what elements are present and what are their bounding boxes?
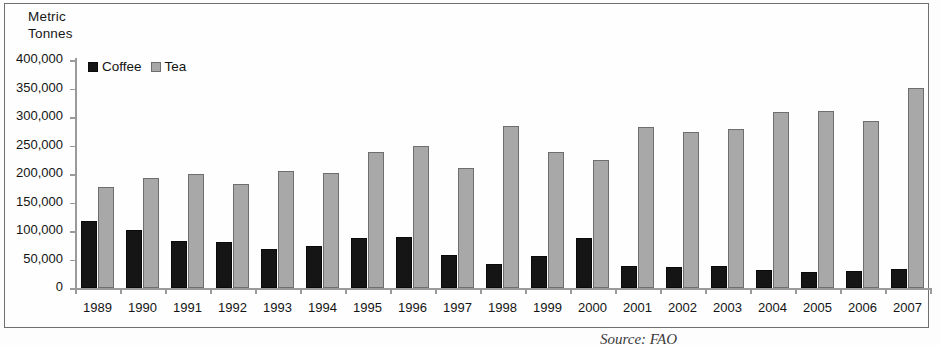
x-axis-tick-mark bbox=[120, 288, 122, 294]
bar-tea-1994 bbox=[323, 173, 339, 288]
bar-tea-2003 bbox=[728, 129, 744, 288]
y-axis-tick-label: 300,000 bbox=[16, 108, 63, 123]
x-axis-tick-label: 1993 bbox=[255, 300, 300, 315]
y-axis-tick-label: 100,000 bbox=[16, 222, 63, 237]
bar-coffee-2006 bbox=[846, 271, 862, 288]
bar-tea-2004 bbox=[773, 112, 789, 288]
x-axis-tick-label: 1995 bbox=[345, 300, 390, 315]
x-axis-tick-mark bbox=[930, 288, 932, 294]
bar-coffee-2001 bbox=[621, 266, 637, 288]
bar-coffee-1990 bbox=[126, 230, 142, 288]
x-axis-tick-label: 2006 bbox=[840, 300, 885, 315]
x-axis-tick-mark bbox=[840, 288, 842, 294]
bar-coffee-1997 bbox=[441, 255, 457, 288]
x-axis-tick-label: 2007 bbox=[885, 300, 930, 315]
bar-tea-1992 bbox=[233, 184, 249, 288]
bar-coffee-2002 bbox=[666, 267, 682, 288]
x-axis-tick-mark bbox=[570, 288, 572, 294]
x-axis-tick-label: 1996 bbox=[390, 300, 435, 315]
y-axis-tick-label: 50,000 bbox=[23, 251, 63, 266]
bar-coffee-1989 bbox=[81, 221, 97, 288]
y-axis-tick-label: 200,000 bbox=[16, 165, 63, 180]
x-axis-tick-mark bbox=[165, 288, 167, 294]
x-axis-tick-mark bbox=[435, 288, 437, 294]
x-axis-tick-label: 1997 bbox=[435, 300, 480, 315]
x-axis-tick-label: 1989 bbox=[75, 300, 120, 315]
x-axis-tick-mark bbox=[705, 288, 707, 294]
x-axis-tick-label: 1992 bbox=[210, 300, 255, 315]
bar-coffee-1994 bbox=[306, 246, 322, 288]
bar-tea-2005 bbox=[818, 111, 834, 288]
x-axis-tick-mark bbox=[750, 288, 752, 294]
bar-tea-2007 bbox=[908, 88, 924, 288]
bar-tea-2000 bbox=[593, 160, 609, 288]
bar-coffee-1998 bbox=[486, 264, 502, 289]
chart-figure: Metric Tonnes Coffee Tea 400,000350,0003… bbox=[0, 0, 941, 345]
x-axis-tick-label: 1999 bbox=[525, 300, 570, 315]
x-axis-tick-label: 2001 bbox=[615, 300, 660, 315]
x-axis-tick-mark bbox=[885, 288, 887, 294]
bar-tea-1993 bbox=[278, 171, 294, 288]
bar-coffee-1996 bbox=[396, 237, 412, 288]
bar-coffee-1991 bbox=[171, 241, 187, 288]
bar-coffee-1999 bbox=[531, 256, 547, 288]
y-axis-tick-label: 0 bbox=[56, 279, 63, 294]
x-axis-tick-mark bbox=[390, 288, 392, 294]
y-axis-title: Metric Tonnes bbox=[28, 8, 73, 42]
y-axis-tick-label: 400,000 bbox=[16, 51, 63, 66]
y-axis-tick-label: 150,000 bbox=[16, 194, 63, 209]
x-axis-tick-label: 1998 bbox=[480, 300, 525, 315]
bar-coffee-1993 bbox=[261, 249, 277, 288]
bar-tea-1995 bbox=[368, 152, 384, 288]
x-axis-tick-mark bbox=[345, 288, 347, 294]
bar-coffee-1995 bbox=[351, 238, 367, 288]
x-axis-tick-label: 2000 bbox=[570, 300, 615, 315]
figure-caption: Source: FAO bbox=[600, 331, 930, 344]
bar-tea-1997 bbox=[458, 168, 474, 288]
x-axis-tick-label: 2004 bbox=[750, 300, 795, 315]
x-axis-line bbox=[75, 288, 930, 290]
x-axis-tick-mark bbox=[795, 288, 797, 294]
bar-tea-1998 bbox=[503, 126, 519, 288]
bar-coffee-2007 bbox=[891, 269, 907, 288]
bar-tea-2001 bbox=[638, 127, 654, 288]
x-axis-tick-label: 1990 bbox=[120, 300, 165, 315]
bar-tea-1989 bbox=[98, 187, 114, 288]
x-axis-tick-label: 2005 bbox=[795, 300, 840, 315]
bar-tea-2002 bbox=[683, 132, 699, 288]
x-axis-tick-label: 2002 bbox=[660, 300, 705, 315]
x-axis-tick-mark bbox=[480, 288, 482, 294]
bar-tea-1996 bbox=[413, 146, 429, 288]
x-axis-tick-mark bbox=[300, 288, 302, 294]
bar-coffee-2003 bbox=[711, 266, 727, 288]
x-axis-tick-mark bbox=[615, 288, 617, 294]
x-axis-tick-label: 2003 bbox=[705, 300, 750, 315]
x-axis-tick-label: 1994 bbox=[300, 300, 345, 315]
bar-coffee-2000 bbox=[576, 238, 592, 288]
bar-tea-2006 bbox=[863, 121, 879, 288]
x-axis-tick-mark bbox=[660, 288, 662, 294]
x-axis-tick-mark bbox=[75, 288, 77, 294]
plot-area bbox=[75, 60, 930, 288]
x-axis-tick-mark bbox=[525, 288, 527, 294]
bar-tea-1999 bbox=[548, 152, 564, 288]
bar-tea-1990 bbox=[143, 178, 159, 288]
bar-coffee-1992 bbox=[216, 242, 232, 288]
y-axis-tick-label: 250,000 bbox=[16, 137, 63, 152]
x-axis-tick-mark bbox=[255, 288, 257, 294]
bar-tea-1991 bbox=[188, 174, 204, 288]
x-axis-tick-mark bbox=[210, 288, 212, 294]
bar-coffee-2004 bbox=[756, 270, 772, 288]
y-axis-tick-label: 350,000 bbox=[16, 80, 63, 95]
x-axis-tick-label: 1991 bbox=[165, 300, 210, 315]
bar-coffee-2005 bbox=[801, 272, 817, 288]
